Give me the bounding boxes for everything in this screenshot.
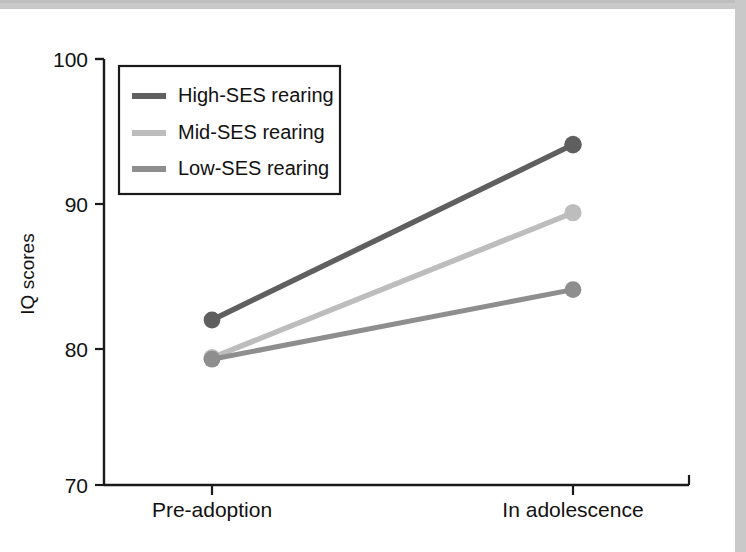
chart-legend: High-SES rearing Mid-SES rearing Low-SES… [119, 66, 340, 194]
line-chart: 100 90 80 70 IQ scores Pre-adoption In a… [0, 9, 735, 552]
y-axis-tick-labels: 100 90 80 70 [53, 48, 88, 497]
series-mid-ses [203, 204, 581, 366]
y-tick-label-100: 100 [53, 48, 88, 71]
y-tick-label-90: 90 [65, 193, 88, 216]
y-axis-ticks [95, 59, 104, 485]
legend-label-mid-ses: Mid-SES rearing [178, 121, 325, 143]
x-tick-label-in-adolescence: In adolescence [502, 498, 643, 521]
data-point-low-ses-pre-adoption [204, 351, 221, 368]
chart-figure: 100 90 80 70 IQ scores Pre-adoption In a… [0, 9, 735, 552]
scanned-page-frame: 100 90 80 70 IQ scores Pre-adoption In a… [0, 0, 746, 552]
series-line-low-ses [212, 290, 573, 360]
data-point-low-ses-in-adolescence [565, 281, 582, 298]
data-point-high-ses-in-adolescence [564, 136, 582, 154]
y-tick-label-70: 70 [65, 474, 88, 497]
x-tick-label-pre-adoption: Pre-adoption [152, 498, 272, 521]
y-tick-label-80: 80 [65, 338, 88, 361]
legend-label-high-ses: High-SES rearing [178, 84, 334, 106]
legend-label-low-ses: Low-SES rearing [178, 157, 329, 179]
data-point-high-ses-pre-adoption [204, 312, 221, 329]
x-axis-tick-labels: Pre-adoption In adolescence [152, 498, 644, 521]
x-axis-ticks [212, 485, 573, 495]
data-point-mid-ses-in-adolescence [564, 204, 581, 221]
y-axis-title: IQ scores [17, 233, 38, 314]
